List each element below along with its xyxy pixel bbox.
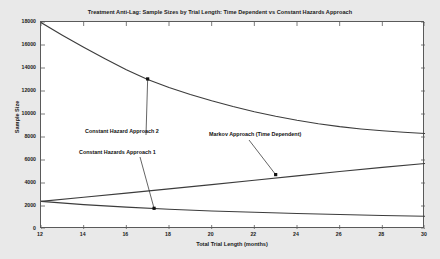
y-tick-label: 0: [0, 225, 36, 231]
x-tick-label: 18: [165, 231, 171, 237]
y-axis-tick-marks: [41, 22, 425, 229]
series-line: [41, 201, 425, 216]
annotation-arrow-head: [152, 207, 155, 210]
chart-figure: Treatment Anti-Lag: Sample Sizes by Tria…: [0, 0, 440, 259]
y-tick-label: 6000: [0, 156, 36, 162]
x-tick-label: 30: [421, 231, 427, 237]
x-tick-label: 28: [378, 231, 384, 237]
series-line: [41, 163, 425, 201]
y-tick-label: 16000: [0, 41, 36, 47]
annotation-constant-hazard-approach-2: Constant Hazard Approach 2: [85, 128, 159, 134]
x-tick-label: 20: [208, 231, 214, 237]
annotation-constant-hazards-approach-1: Constant Hazards Approach 1: [79, 149, 156, 155]
y-tick-label: 14000: [0, 64, 36, 70]
y-tick-label: 4000: [0, 179, 36, 185]
series-lines: [41, 23, 425, 217]
x-tick-label: 24: [293, 231, 299, 237]
x-axis-tick-marks: [41, 22, 425, 229]
y-axis-label: Sample Size: [14, 87, 20, 147]
annotation-markov-approach: Markov Approach (Time Dependent): [209, 131, 301, 137]
plot-area: [40, 21, 424, 228]
x-tick-label: 26: [336, 231, 342, 237]
annotation-leader: [249, 140, 276, 175]
annotation-leader: [146, 79, 148, 135]
plot-svg: [41, 22, 425, 229]
series-line: [41, 23, 425, 134]
annotation-leader: [140, 157, 154, 208]
x-tick-label: 12: [37, 231, 43, 237]
x-axis-label: Total Trial Length (months): [40, 241, 424, 247]
y-tick-label: 2000: [0, 202, 36, 208]
x-tick-label: 16: [122, 231, 128, 237]
annotation-arrow-head: [146, 77, 149, 80]
chart-title: Treatment Anti-Lag: Sample Sizes by Tria…: [0, 9, 440, 15]
annotation-arrow-head: [274, 173, 277, 176]
x-tick-label: 14: [80, 231, 86, 237]
y-tick-label: 18000: [0, 18, 36, 24]
x-tick-label: 22: [250, 231, 256, 237]
